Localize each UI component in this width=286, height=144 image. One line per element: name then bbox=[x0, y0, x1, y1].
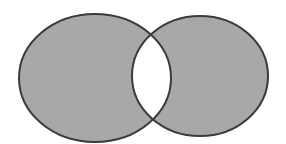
venn-diagram bbox=[0, 0, 286, 144]
